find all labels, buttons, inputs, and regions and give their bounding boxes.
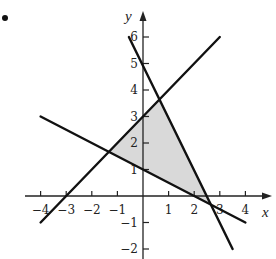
x-tick-label: −3 bbox=[57, 203, 75, 217]
y-tick-label: −1 bbox=[120, 216, 138, 230]
x-tick-label: 4 bbox=[242, 203, 250, 217]
x-tick-label: 1 bbox=[165, 203, 173, 217]
y-tick-label: −2 bbox=[120, 242, 138, 256]
x-axis-arrow-icon bbox=[262, 193, 272, 200]
coordinate-graph: −4 −3 −2 −1 1 2 3 4 6 5 4 3 2 1 −1 −2 x … bbox=[0, 0, 276, 259]
x-axis-label: x bbox=[261, 204, 269, 220]
shaded-region bbox=[109, 99, 211, 205]
y-axis-arrow-icon bbox=[140, 11, 147, 21]
x-tick-label: −2 bbox=[83, 203, 101, 217]
y-tick-label: 5 bbox=[130, 57, 138, 71]
y-tick-label: 2 bbox=[130, 136, 138, 150]
x-tick-label: 2 bbox=[190, 203, 198, 217]
y-axis-label: y bbox=[123, 8, 132, 24]
y-tick-label: 4 bbox=[130, 83, 138, 97]
